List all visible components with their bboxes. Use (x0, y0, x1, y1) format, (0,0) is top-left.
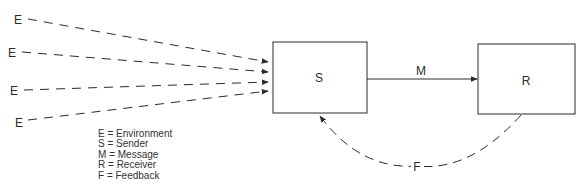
legend-key: F (98, 170, 104, 181)
legend-sep: = (107, 128, 113, 139)
legend-item-feedback: F = Feedback (98, 171, 172, 181)
receiver-label: R (522, 74, 531, 88)
legend-value: Receiver (117, 159, 156, 170)
legend-sep: = (109, 149, 115, 160)
feedback-label: F (413, 160, 420, 174)
legend-sep: = (107, 138, 113, 149)
legend-sep: = (108, 159, 114, 170)
environment-label-1: E (14, 13, 22, 27)
sender-label: S (315, 71, 323, 85)
legend: E = Environment S = Sender M = Message R… (98, 129, 172, 181)
legend-key: M (98, 149, 106, 160)
environment-arrow-1 (28, 19, 268, 62)
communication-diagram: E E E E S R M F (0, 0, 587, 190)
feedback-arrow (320, 115, 521, 167)
environment-arrow-3 (24, 82, 268, 90)
legend-value: Sender (116, 138, 148, 149)
legend-sep: = (107, 170, 113, 181)
environment-arrow-4 (28, 91, 268, 120)
legend-value: Feedback (116, 170, 160, 181)
legend-key: S (98, 138, 105, 149)
environment-label-2: E (8, 46, 16, 60)
legend-key: R (98, 159, 105, 170)
environment-arrow-2 (22, 52, 268, 72)
legend-value: Environment (116, 128, 172, 139)
environment-label-3: E (10, 84, 18, 98)
legend-value: Message (118, 149, 159, 160)
legend-key: E (98, 128, 105, 139)
environment-label-4: E (15, 116, 23, 130)
message-label: M (416, 64, 426, 78)
